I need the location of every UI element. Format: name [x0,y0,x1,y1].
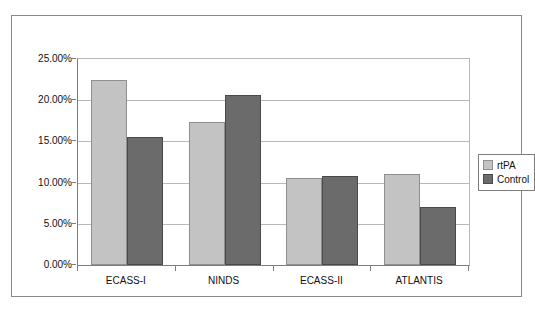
y-axis-tick-label: 0.00% [18,259,72,270]
light-gray-square-icon [483,160,493,170]
x-axis-tick-mark [370,266,371,271]
bar-rtpa-ecass-i[interactable] [91,80,127,265]
x-axis-label-ecass-ii: ECASS-II [300,275,343,286]
legend-label: Control [497,174,529,185]
y-axis-tick-label: 20.00% [18,94,72,105]
x-axis: ECASS-ININDSECASS-IIATLANTIS [77,266,470,296]
bar-rtpa-ecass-ii[interactable] [286,178,322,265]
legend-item-rtpa[interactable]: rtPA [483,158,529,172]
y-axis-tick-mark [71,99,76,100]
bar-group [91,59,163,265]
y-axis-tick-mark [71,264,76,265]
y-axis-tick-mark [71,140,76,141]
y-axis-tick-mark [71,58,76,59]
chart-frame: 0.00%5.00%10.00%15.00%20.00%25.00% ECASS… [11,15,522,297]
dark-gray-square-icon [483,174,493,184]
y-axis-tick-label: 5.00% [18,217,72,228]
y-axis-tick-mark [71,182,76,183]
y-axis-tick-label: 15.00% [18,135,72,146]
bar-group [189,59,261,265]
legend-label: rtPA [497,160,516,171]
x-axis-tick-mark [468,266,469,271]
x-axis-label-ninds: NINDS [208,275,239,286]
bar-rtpa-ninds[interactable] [189,122,225,265]
plot-area [77,58,470,266]
y-axis-tick-mark [71,223,76,224]
y-axis-tick-label: 10.00% [18,176,72,187]
x-axis-label-ecass-i: ECASS-I [106,275,146,286]
y-axis: 0.00%5.00%10.00%15.00%20.00%25.00% [12,58,72,266]
bar-group [384,59,456,265]
x-axis-tick-mark [273,266,274,271]
legend-item-control[interactable]: Control [483,172,529,186]
x-axis-tick-mark [77,266,78,271]
bar-control-ecass-i[interactable] [127,137,163,265]
bar-control-ninds[interactable] [225,95,261,265]
x-axis-tick-mark [175,266,176,271]
bar-group [286,59,358,265]
bar-control-ecass-ii[interactable] [322,176,358,265]
chart-legend: rtPAControl [478,154,535,191]
x-axis-label-atlantis: ATLANTIS [396,275,443,286]
bar-rtpa-atlantis[interactable] [384,174,420,265]
bar-control-atlantis[interactable] [420,207,456,265]
y-axis-tick-label: 25.00% [18,53,72,64]
